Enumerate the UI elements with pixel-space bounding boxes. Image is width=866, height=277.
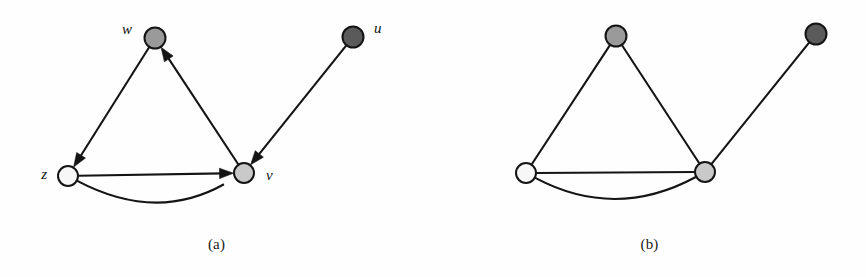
graph-edge <box>622 45 699 163</box>
graph-node <box>516 163 536 183</box>
graph-node-label: z <box>40 166 47 182</box>
graph-node <box>145 28 166 49</box>
arrowhead <box>219 168 233 178</box>
graph-edge-curved <box>77 181 224 203</box>
caption-b: (b) <box>433 236 866 253</box>
panel-b: (b) <box>433 0 866 277</box>
arrowhead <box>74 153 86 168</box>
graph-node-label: u <box>374 20 382 36</box>
arrowhead <box>161 47 173 62</box>
graph-edge <box>536 172 694 173</box>
graph-node <box>343 27 364 48</box>
graph-edge <box>78 173 223 175</box>
graph-edge <box>79 47 149 158</box>
graph-edge-curved <box>535 177 695 199</box>
graph-node <box>606 26 627 47</box>
graph-edge <box>712 43 810 164</box>
graph-edge <box>532 45 610 164</box>
graph-node <box>806 24 827 45</box>
graph-node-label: v <box>266 167 273 183</box>
caption-a: (a) <box>0 236 433 253</box>
graph-edge <box>257 46 346 157</box>
graph-edge <box>167 56 238 164</box>
graph-node <box>58 166 78 186</box>
figure-root: wuzv (a) (b) <box>0 0 866 277</box>
panel-a: wuzv (a) <box>0 0 433 277</box>
graph-node <box>695 162 715 182</box>
graph-node <box>234 163 254 183</box>
graph-node-label: w <box>122 21 132 37</box>
